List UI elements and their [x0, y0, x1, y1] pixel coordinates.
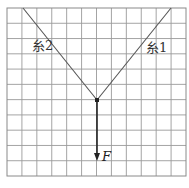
force-arrow-head	[94, 153, 100, 161]
force-label: F	[101, 149, 112, 164]
junction-point	[95, 98, 99, 102]
string-2-label: 糸2	[32, 38, 53, 53]
string-1-label: 糸1	[146, 40, 167, 55]
force-diagram: 糸2 糸1 F	[0, 0, 189, 188]
